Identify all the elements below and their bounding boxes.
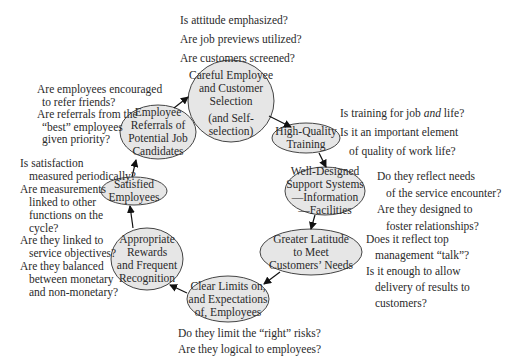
question-text: measured periodically? — [20, 170, 136, 183]
question-text: Are referrals from the — [37, 108, 162, 121]
question-text: Do they limit the “right” risks? — [178, 325, 321, 341]
node-text: (and Self- — [208, 112, 254, 125]
question-text: functions on the — [20, 209, 136, 222]
questions-satisfied-employees: Is satisfaction measured periodically? A… — [20, 157, 136, 299]
question-text: between monetary — [20, 273, 136, 286]
question-text: service objectives? — [20, 247, 136, 260]
question-text: Does it reflect top — [366, 231, 470, 247]
node-text: and Expectations — [189, 293, 268, 306]
node-text: Support Systems — [286, 178, 364, 191]
node-text: Training — [286, 138, 325, 151]
question-text: Are they logical to employees? — [178, 341, 321, 357]
question-text: and non-monetary? — [20, 286, 136, 299]
question-text: Are they designed to — [377, 201, 501, 218]
question-text: customers? — [366, 295, 470, 311]
questions-support-systems: Do they reflect needs of the service enc… — [377, 168, 501, 234]
node-text: of, Employees — [195, 306, 261, 319]
node-well-designed-support: Well-Designed Support Systems —Informati… — [285, 168, 365, 214]
question-text: Is satisfaction — [20, 157, 136, 170]
question-text: given priority? — [37, 133, 162, 146]
question-text: Are they linked to — [20, 234, 136, 247]
question-text: to refer friends? — [37, 96, 162, 109]
questions-clear-limits: Do they limit the “right” risks? Are the… — [178, 325, 321, 357]
node-text: Customers’ Needs — [269, 259, 353, 272]
question-text: Is it an important element — [340, 123, 464, 142]
arrow-support-to-latitude — [311, 215, 315, 229]
question-part: life? — [441, 107, 464, 119]
node-text: Greater Latitude — [273, 233, 349, 246]
node-text: Candidates — [132, 145, 183, 158]
node-text: —Facilities — [298, 204, 352, 217]
question-text: Are employees encouraged — [37, 83, 162, 96]
questions-training: Is training for job and life? Is it an i… — [340, 104, 464, 161]
node-high-quality-training: High-Quality Training — [272, 124, 340, 152]
question-text: cycle? — [20, 222, 136, 235]
questions-employee-referrals: Are employees encouraged to refer friend… — [37, 83, 162, 146]
questions-latitude: Does it reflect top management “talk”? I… — [366, 231, 470, 311]
node-greater-latitude: Greater Latitude to Meet Customers’ Need… — [260, 231, 362, 273]
node-text: Careful Employee — [189, 69, 273, 82]
question-text: management “talk”? — [366, 247, 470, 263]
node-text: Selection — [210, 95, 253, 108]
question-text: “best” employees — [37, 121, 162, 134]
question-text: Is it enough to allow — [366, 263, 470, 279]
question-emphasis: and — [424, 107, 441, 119]
node-text: —Information — [292, 191, 358, 204]
question-text: Are job previews utilized? — [180, 30, 302, 49]
questions-careful-selection: Is attitude emphasized? Are job previews… — [180, 11, 302, 68]
question-text: Do they reflect needs — [377, 168, 501, 185]
question-text: Is training for job and life? — [340, 104, 464, 123]
node-text: and Customer — [199, 82, 263, 95]
question-text: of quality of work life? — [340, 142, 464, 161]
node-careful-selection: Careful Employee and Customer Selection … — [188, 66, 274, 140]
node-text: Clear Limits on, — [190, 280, 265, 293]
question-text: delivery of results to — [366, 279, 470, 295]
node-text: to Meet — [293, 246, 328, 259]
node-text: High-Quality — [275, 125, 336, 138]
node-text: selection) — [209, 125, 254, 138]
question-text: Are measurements — [20, 183, 136, 196]
question-text: of the service encounter? — [377, 185, 501, 202]
question-part: Is training for job — [340, 107, 424, 119]
question-text: Are customers screened? — [180, 49, 302, 68]
question-text: Are they balanced — [20, 260, 136, 273]
question-text: linked to other — [20, 196, 136, 209]
node-clear-limits: Clear Limits on, and Expectations of, Em… — [187, 278, 269, 320]
question-text: Is attitude emphasized? — [180, 11, 302, 30]
node-text: Well-Designed — [291, 165, 360, 178]
